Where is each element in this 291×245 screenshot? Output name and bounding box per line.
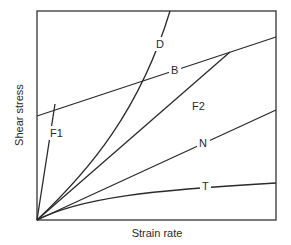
curve-d: [37, 11, 170, 220]
label-f2: F2: [192, 100, 205, 112]
label-d: D: [156, 38, 164, 50]
curve-n: [37, 110, 276, 220]
curve-f1: [37, 104, 55, 220]
label-t: T: [202, 180, 209, 192]
y-axis-label: Shear stress: [13, 84, 25, 146]
rheology-diagram: D B F2 F1 N T Strain rate Shear stress: [0, 0, 291, 245]
label-f1: F1: [50, 127, 63, 139]
x-axis-label: Strain rate: [132, 227, 183, 239]
label-b: B: [171, 64, 178, 76]
label-n: N: [199, 137, 207, 149]
